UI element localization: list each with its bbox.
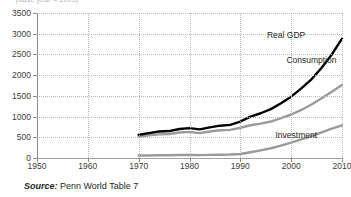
y-axis-tick xyxy=(33,75,37,76)
series-label-investment: Investment xyxy=(275,130,317,140)
y-axis-tick-label: 1500 xyxy=(12,91,31,101)
gridline-vertical xyxy=(342,13,343,158)
gridline-vertical xyxy=(139,13,140,158)
y-axis-tick-label: 3000 xyxy=(12,29,31,39)
gridline-vertical xyxy=(190,13,191,158)
source-label: Source: xyxy=(24,181,58,191)
source-caption: Source: Penn World Table 7 xyxy=(24,181,138,191)
y-axis-tick xyxy=(33,137,37,138)
y-axis-labels: 0500100015002000250030003500 xyxy=(0,13,31,158)
y-axis-tick xyxy=(33,54,37,55)
x-axis-tick-label: 1960 xyxy=(78,161,97,171)
y-axis-tick xyxy=(33,96,37,97)
x-axis-tick-label: 2010 xyxy=(333,161,351,171)
y-axis-tick-label: 3500 xyxy=(12,8,31,18)
series-label-consumption: Consumption xyxy=(286,55,336,65)
y-axis-tick-label: 2000 xyxy=(12,70,31,80)
gridline-vertical xyxy=(88,13,89,158)
y-axis-tick-label: 2500 xyxy=(12,49,31,59)
source-value: Penn World Table 7 xyxy=(58,181,139,191)
chart-top-note: (base year = 2005) xyxy=(16,0,79,3)
x-axis-tick-label: 1950 xyxy=(28,161,47,171)
y-axis-tick-label: 500 xyxy=(17,132,31,142)
x-axis-tick-label: 1990 xyxy=(231,161,250,171)
y-axis-tick xyxy=(33,117,37,118)
gridline-vertical xyxy=(240,13,241,158)
series-label-real-gdp: Real GDP xyxy=(267,30,305,40)
x-axis-tick-label: 1970 xyxy=(129,161,148,171)
y-axis-tick-label: 1000 xyxy=(12,112,31,122)
y-axis-tick xyxy=(33,13,37,14)
y-axis-tick xyxy=(33,34,37,35)
x-axis-tick-label: 2000 xyxy=(282,161,301,171)
x-axis-tick-label: 1980 xyxy=(180,161,199,171)
